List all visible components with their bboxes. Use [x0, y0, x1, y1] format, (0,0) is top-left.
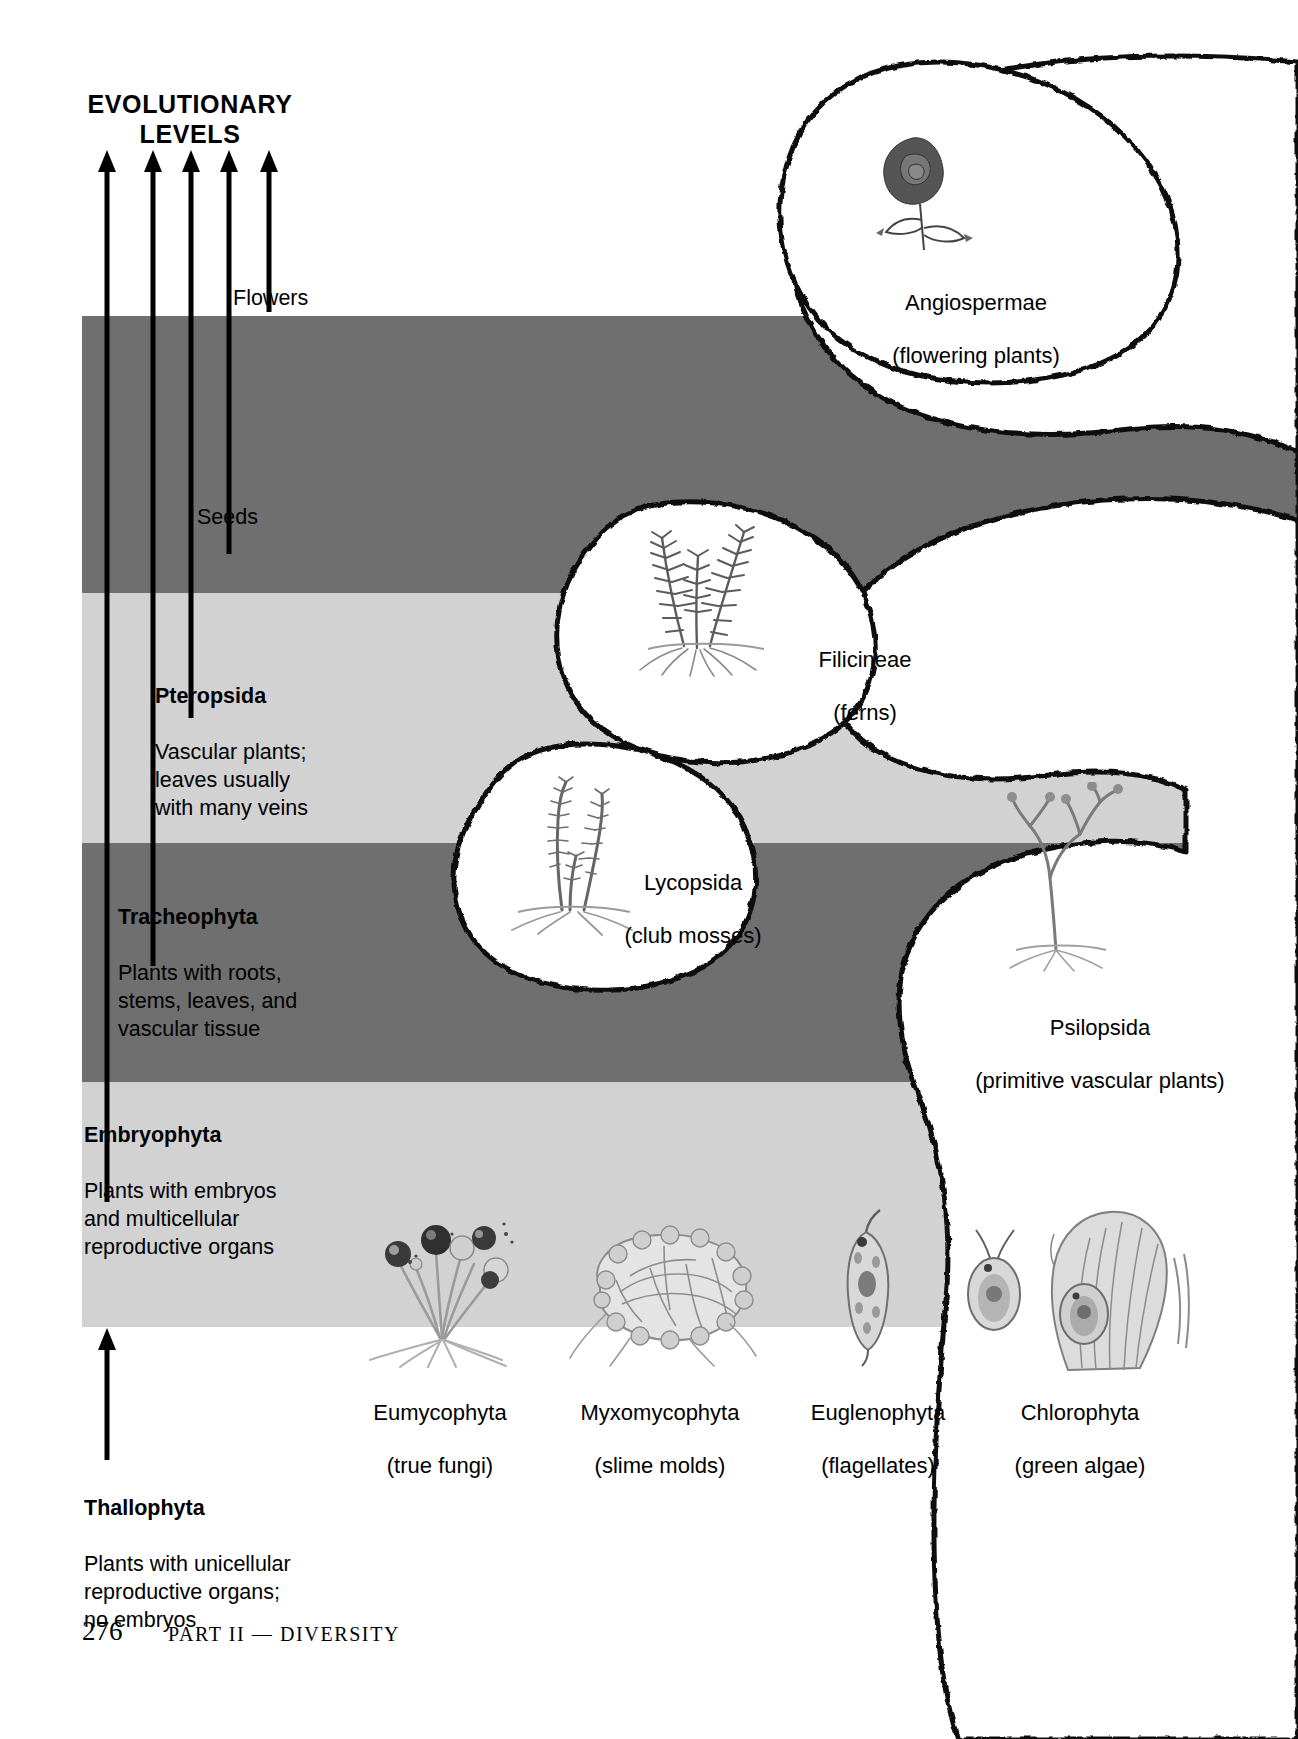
trait-label-flowers: Flowers: [233, 286, 308, 311]
level-block-pteropsida: Pteropsida Vascular plants; leaves usual…: [155, 655, 415, 823]
arrow-shaft: [151, 168, 156, 966]
level-name-pteropsida: Pteropsida: [155, 683, 415, 711]
arrow-shaft: [189, 168, 194, 718]
level-name-thallophyta: Thallophyta: [84, 1495, 384, 1523]
arrow-thallophyta: [98, 1328, 116, 1460]
diagram-canvas: EVOLUTIONARY LEVELS Flowers Seeds Pterop…: [0, 0, 1298, 1739]
caption-filicineae: Filicineae (ferns): [740, 620, 990, 727]
page-title: EVOLUTIONARY LEVELS: [60, 90, 320, 149]
trait-label-seeds: Seeds: [197, 505, 258, 530]
slime-mold-illustration: [560, 1218, 760, 1368]
caption-eumycophyta: Eumycophyta (true fungi): [352, 1373, 528, 1480]
caption-common-myxomycophyta: (slime molds): [595, 1453, 726, 1478]
caption-euglenophyta: Euglenophyta (flagellates): [788, 1373, 968, 1480]
euglena-illustration: [822, 1208, 912, 1368]
psilopsid-illustration: [980, 782, 1150, 972]
caption-common-chlorophyta: (green algae): [1015, 1453, 1146, 1478]
caption-common-eumycophyta: (true fungi): [387, 1453, 493, 1478]
caption-lycopsida: Lycopsida (club mosses): [600, 843, 786, 950]
caption-name-angiospermae: Angiospermae: [905, 290, 1047, 315]
caption-psilopsida: Psilopsida (primitive vascular plants): [902, 988, 1298, 1095]
level-name-embryophyta: Embryophyta: [84, 1122, 374, 1150]
caption-chlorophyta: Chlorophyta (green algae): [980, 1373, 1180, 1480]
caption-common-angiospermae: (flowering plants): [892, 343, 1060, 368]
caption-name-lycopsida: Lycopsida: [644, 870, 742, 895]
level-block-thallophyta: Thallophyta Plants with unicellular repr…: [84, 1467, 384, 1635]
level-desc-embryophyta: Plants with embryos and multicellular re…: [84, 1179, 276, 1259]
running-head: PART II — DIVERSITY: [168, 1623, 400, 1646]
caption-common-euglenophyta: (flagellates): [821, 1453, 935, 1478]
arrow-seeds: [220, 150, 238, 554]
caption-common-psilopsida: (primitive vascular plants): [975, 1068, 1224, 1095]
caption-common-filicineae: (ferns): [833, 700, 897, 725]
arrow-pteropsida: [182, 150, 200, 718]
arrow-tracheophyta: [144, 150, 162, 966]
caption-name-eumycophyta: Eumycophyta: [373, 1400, 506, 1425]
level-desc-tracheophyta: Plants with roots, stems, leaves, and va…: [118, 961, 297, 1041]
caption-name-myxomycophyta: Myxomycophyta: [581, 1400, 740, 1425]
green-algae-illustration: [950, 1198, 1190, 1378]
caption-name-filicineae: Filicineae: [819, 647, 912, 672]
rose-illustration: [838, 124, 988, 254]
arrow-embryophyta: [98, 150, 116, 1202]
caption-myxomycophyta: Myxomycophyta (slime molds): [550, 1373, 770, 1480]
arrow-shaft: [227, 168, 232, 554]
caption-name-euglenophyta: Euglenophyta: [811, 1400, 946, 1425]
level-name-tracheophyta: Tracheophyta: [118, 904, 388, 932]
caption-common-lycopsida: (club mosses): [625, 923, 762, 948]
level-block-embryophyta: Embryophyta Plants with embryos and mult…: [84, 1094, 374, 1262]
caption-angiospermae: Angiospermae (flowering plants): [826, 263, 1126, 370]
caption-name-chlorophyta: Chlorophyta: [1021, 1400, 1140, 1425]
level-desc-pteropsida: Vascular plants; leaves usually with man…: [155, 740, 308, 820]
level-block-tracheophyta: Tracheophyta Plants with roots, stems, l…: [118, 876, 388, 1044]
arrow-shaft: [105, 168, 110, 1202]
caption-name-psilopsida: Psilopsida: [1050, 1015, 1150, 1040]
arrow-shaft: [105, 1346, 110, 1460]
fungi-illustration: [348, 1208, 528, 1368]
page-number: 276: [82, 1616, 123, 1647]
